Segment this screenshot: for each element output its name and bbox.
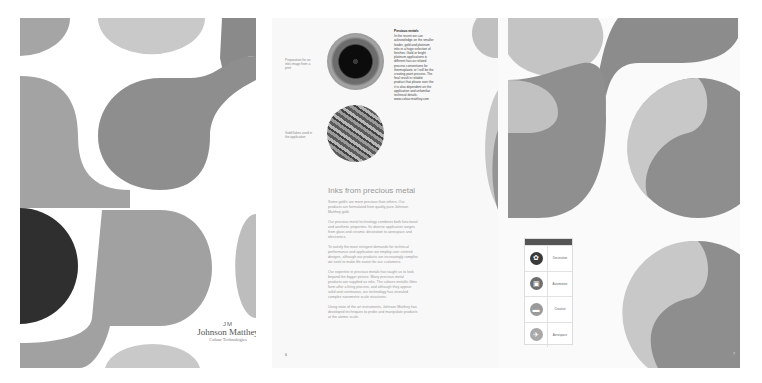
brand-name: Johnson Matthey xyxy=(192,327,256,337)
panel-row-label: Creative xyxy=(548,297,572,322)
paragraph: Some gold's are more precious than other… xyxy=(328,200,418,215)
article-body: Some gold's are more precious than other… xyxy=(328,200,418,325)
sidebar-title: Precious metals xyxy=(394,29,434,33)
page-number-left: 6 xyxy=(285,353,287,357)
aerospace-icon: ✈ xyxy=(530,328,543,341)
page-title: Inks from precious metal xyxy=(328,186,415,195)
page-number-right: 7 xyxy=(733,352,735,356)
automotive-icon: ▣ xyxy=(530,277,543,290)
panel-row: ▬ Creative xyxy=(525,296,572,322)
panel-row-label: Automotive xyxy=(548,272,572,297)
nozzle-photo xyxy=(327,33,384,90)
panel-row: ▣ Automotive xyxy=(525,271,572,297)
panel-row-label: Decoration xyxy=(548,246,572,271)
gold-flakes-photo xyxy=(327,105,384,162)
paragraph: Using state of the art instruments, John… xyxy=(328,305,418,320)
industry-panel: ✿ Decoration ▣ Automotive ▬ Creative ✈ A… xyxy=(524,238,573,345)
paragraph: Our expertise in precious metals has tau… xyxy=(328,270,418,300)
cover-pattern xyxy=(20,18,256,368)
decoration-icon: ✿ xyxy=(530,252,543,265)
brand-subtitle: Colour Technologies xyxy=(192,337,256,342)
photo-caption: Preparation for an inks image from a pri… xyxy=(285,58,317,70)
precious-metals-sidebar: Precious metals In the recent we can ack… xyxy=(394,29,434,101)
panel-row: ✈ Aerospace xyxy=(525,322,572,348)
creative-icon: ▬ xyxy=(530,303,543,316)
paragraph: Our precious metal technology combines b… xyxy=(328,220,418,240)
paragraph: To satisfy the most stringent demands fo… xyxy=(328,245,418,265)
cover-page: JM Johnson Matthey Colour Technologies xyxy=(20,18,256,368)
sidebar-body: In the recent we can acknowledge on the … xyxy=(394,34,434,101)
panel-row-label: Aerospace xyxy=(548,323,572,348)
photo-caption: Gold flakes used in the application xyxy=(285,131,317,139)
brand-logo: JM Johnson Matthey Colour Technologies xyxy=(192,321,256,342)
panel-row: ✿ Decoration xyxy=(525,245,572,271)
